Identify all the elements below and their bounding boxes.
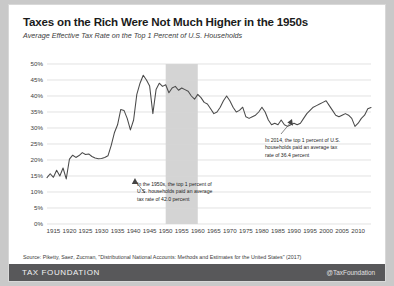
x-axis-tick-label: 1975: [239, 227, 253, 234]
y-axis-tick-label: 5%: [34, 204, 43, 211]
x-axis-tick-label: 1970: [223, 227, 237, 234]
x-axis-tick-label: 1965: [207, 227, 221, 234]
y-axis-tick-label: 30%: [31, 124, 44, 131]
annotation-1950s: In the 1950s, the top 1 percent of U.S. …: [137, 181, 215, 203]
footer-brand: TAX FOUNDATION: [22, 268, 100, 277]
y-axis-tick-label: 10%: [31, 188, 44, 195]
y-axis-tick-label: 20%: [31, 156, 44, 163]
footer-social-handle: @TaxFoundation: [327, 269, 375, 276]
data-series-line: [47, 75, 371, 179]
page-title: Taxes on the Rich Were Not Much Higher i…: [23, 15, 308, 28]
x-axis-tick-label: 1920: [63, 227, 77, 234]
x-axis-tick-label: 1990: [287, 227, 301, 234]
x-axis-tick-label: 1960: [191, 227, 205, 234]
x-axis-tick-label: 2010: [351, 227, 365, 234]
y-axis-tick-label: 35%: [31, 108, 44, 115]
x-axis-tick-label: 1995: [303, 227, 317, 234]
source-note: Source: Piketty, Saez, Zucman, "Distribu…: [23, 254, 301, 260]
x-axis-tick-label: 1950: [159, 227, 173, 234]
x-axis-tick-label: 1980: [255, 227, 269, 234]
y-axis-tick-label: 15%: [31, 172, 44, 179]
y-axis-tick-label: 40%: [31, 92, 44, 99]
x-axis-tick-label: 1940: [127, 227, 141, 234]
chart-subtitle: Average Effective Tax Rate on the Top 1 …: [23, 31, 242, 40]
x-axis-tick-label: 1930: [95, 227, 109, 234]
chart-card: Taxes on the Rich Were Not Much Higher i…: [8, 4, 386, 282]
x-axis-tick-label: 1985: [271, 227, 285, 234]
x-axis-tick-label: 2005: [335, 227, 349, 234]
footer-bar: TAX FOUNDATION @TaxFoundation: [9, 264, 385, 281]
x-axis-tick-label: 1945: [143, 227, 157, 234]
x-axis-tick-label: 1915: [47, 227, 61, 234]
y-axis-tick-label: 45%: [31, 76, 44, 83]
x-axis-tick-label: 1955: [175, 227, 189, 234]
y-axis-tick-label: 25%: [31, 140, 44, 147]
annotation-2014: In 2014, the top 1 percent of U.S. house…: [265, 137, 343, 159]
x-axis-tick-label: 1925: [79, 227, 93, 234]
y-axis-tick-label: 0%: [34, 220, 43, 227]
x-axis-tick-label: 1935: [111, 227, 125, 234]
y-axis-tick-label: 50%: [31, 60, 44, 67]
x-axis-tick-label: 2000: [319, 227, 333, 234]
